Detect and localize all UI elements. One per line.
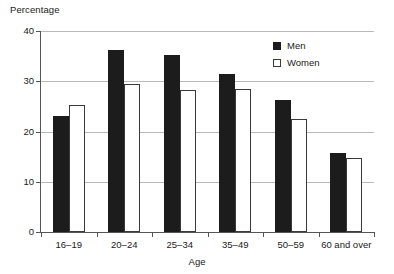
legend-item-men: Men xyxy=(273,38,363,53)
x-tick-mark xyxy=(374,233,375,237)
x-category-label: 25–34 xyxy=(152,240,208,250)
legend-swatch-men-icon xyxy=(273,42,281,50)
y-tick-label-wrap: 0 xyxy=(0,227,34,237)
x-tick-mark xyxy=(97,233,98,237)
legend-item-women: Women xyxy=(273,55,363,70)
bar-women xyxy=(124,84,140,232)
x-category-label: 20–24 xyxy=(97,240,153,250)
legend-label-women: Women xyxy=(287,58,320,68)
y-tick-label: 30 xyxy=(4,76,34,86)
bar-women xyxy=(291,119,307,232)
bar-men xyxy=(275,100,291,232)
x-category-label: 50–59 xyxy=(263,240,319,250)
y-tick-label-wrap: 10 xyxy=(0,177,34,187)
bar-men xyxy=(164,55,180,232)
bar-women xyxy=(69,105,85,232)
bar-women xyxy=(346,158,362,232)
x-category-label: 16–19 xyxy=(41,240,97,250)
bar-men xyxy=(219,74,235,232)
chart-legend: Men Women xyxy=(273,38,363,72)
y-axis-title: Percentage xyxy=(10,4,60,15)
bar-women xyxy=(180,90,196,232)
y-tick-label: 0 xyxy=(4,227,34,237)
y-tick-label: 10 xyxy=(4,177,34,187)
x-tick-mark xyxy=(152,233,153,237)
bar-men xyxy=(53,116,69,232)
x-axis-title: Age xyxy=(0,256,394,267)
bar-men xyxy=(108,50,124,232)
bar-women xyxy=(235,89,251,232)
x-tick-mark xyxy=(263,233,264,237)
y-tick-label: 40 xyxy=(4,26,34,36)
x-category-label: 35–49 xyxy=(208,240,264,250)
legend-label-men: Men xyxy=(287,41,305,51)
y-tick-label: 20 xyxy=(4,127,34,137)
x-category-label: 60 and over xyxy=(319,240,375,250)
bar-men xyxy=(330,153,346,232)
x-tick-mark xyxy=(319,233,320,237)
y-tick-label-wrap: 30 xyxy=(0,76,34,86)
bar-chart: Percentage 010203040 16–1920–2425–3435–4… xyxy=(0,0,394,274)
x-tick-mark xyxy=(41,233,42,237)
y-tick-label-wrap: 20 xyxy=(0,127,34,137)
x-tick-mark xyxy=(208,233,209,237)
y-tick-label-wrap: 40 xyxy=(0,26,34,36)
legend-swatch-women-icon xyxy=(273,59,281,67)
